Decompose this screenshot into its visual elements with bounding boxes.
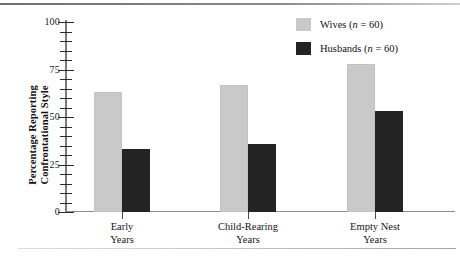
x-category-label-line: Empty Nest — [315, 221, 435, 234]
bar-husbands — [248, 144, 276, 212]
x-category-label-line: Child-Rearing — [188, 221, 308, 234]
x-category-label-line: Years — [315, 234, 435, 247]
figure: Wives (n = 60) Husbands (n = 60) Percent… — [0, 0, 460, 261]
x-category-label: Child-RearingYears — [188, 221, 308, 246]
x-tick — [122, 212, 123, 219]
x-category-label: Empty NestYears — [315, 221, 435, 246]
x-tick — [248, 212, 249, 219]
bar-husbands — [122, 149, 150, 212]
bar-wives — [94, 92, 122, 212]
x-category-label-line: Early — [62, 221, 182, 234]
bar-wives — [220, 85, 248, 212]
plot-area: 1007550250 EarlyYearsChild-RearingYearsE… — [0, 0, 460, 261]
x-category-label: EarlyYears — [62, 221, 182, 246]
bar-wives — [347, 64, 375, 212]
x-category-label-line: Years — [188, 234, 308, 247]
x-category-label-line: Years — [62, 234, 182, 247]
x-tick — [375, 212, 376, 219]
bar-husbands — [375, 111, 403, 212]
